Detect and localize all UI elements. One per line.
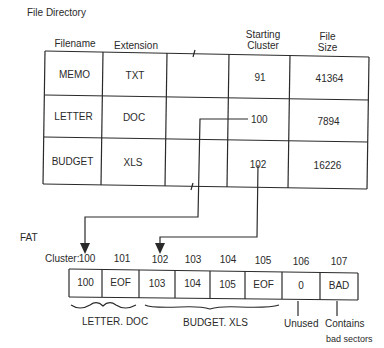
header-cluster-line2: Cluster [238,40,288,51]
cell-filename: LETTER [46,111,101,122]
fat-title: FAT [20,232,38,243]
cell-cluster: 100 [251,114,268,125]
fat-entry: 0 [282,280,320,291]
fat-entry: EOF [102,277,139,288]
header-size-line2: Size [305,42,350,53]
cell-extension: DOC [103,112,165,123]
header-size-line1: File [305,31,350,42]
header-starting-cluster: Starting Cluster [238,29,288,51]
cluster-number: 102 [145,254,175,265]
bad-sectors-label: bad sectors [326,334,373,344]
header-extension: Extension [106,40,166,51]
file-directory-title: File Directory [27,7,86,18]
cluster-number: 101 [107,253,137,264]
cluster-number: 106 [286,256,316,267]
cluster-number: 100 [72,253,102,264]
cluster-number: 103 [178,254,208,265]
fat-entry: 104 [175,278,210,289]
cluster-number: 105 [248,255,278,266]
fat-entry: 105 [210,279,245,290]
fat-entry: BAD [320,280,358,291]
unused-label: Unused [284,318,318,329]
cell-size: 16226 [290,160,365,171]
cell-extension: XLS [102,157,164,168]
cell-filename: MEMO [47,69,102,80]
letter-doc-label: LETTER. DOC [82,316,148,327]
budget-xls-label: BUDGET. XLS [183,317,248,328]
header-file-size: File Size [305,31,350,53]
cell-size: 41364 [292,73,367,84]
fat-entry: EOF [245,279,282,290]
fat-entry: 103 [139,278,175,289]
cluster-number: 107 [324,256,354,267]
cell-cluster: 102 [229,159,287,170]
cluster-number: 104 [213,254,243,265]
fat-entry: 100 [69,277,102,288]
header-cluster-line1: Starting [238,29,288,40]
cell-cluster: 91 [231,72,289,83]
cell-size: 7894 [291,116,366,127]
cell-extension: TXT [104,70,166,81]
cell-filename: BUDGET [45,156,100,167]
header-filename: Filename [50,38,100,49]
contains-label: Contains [325,318,364,329]
